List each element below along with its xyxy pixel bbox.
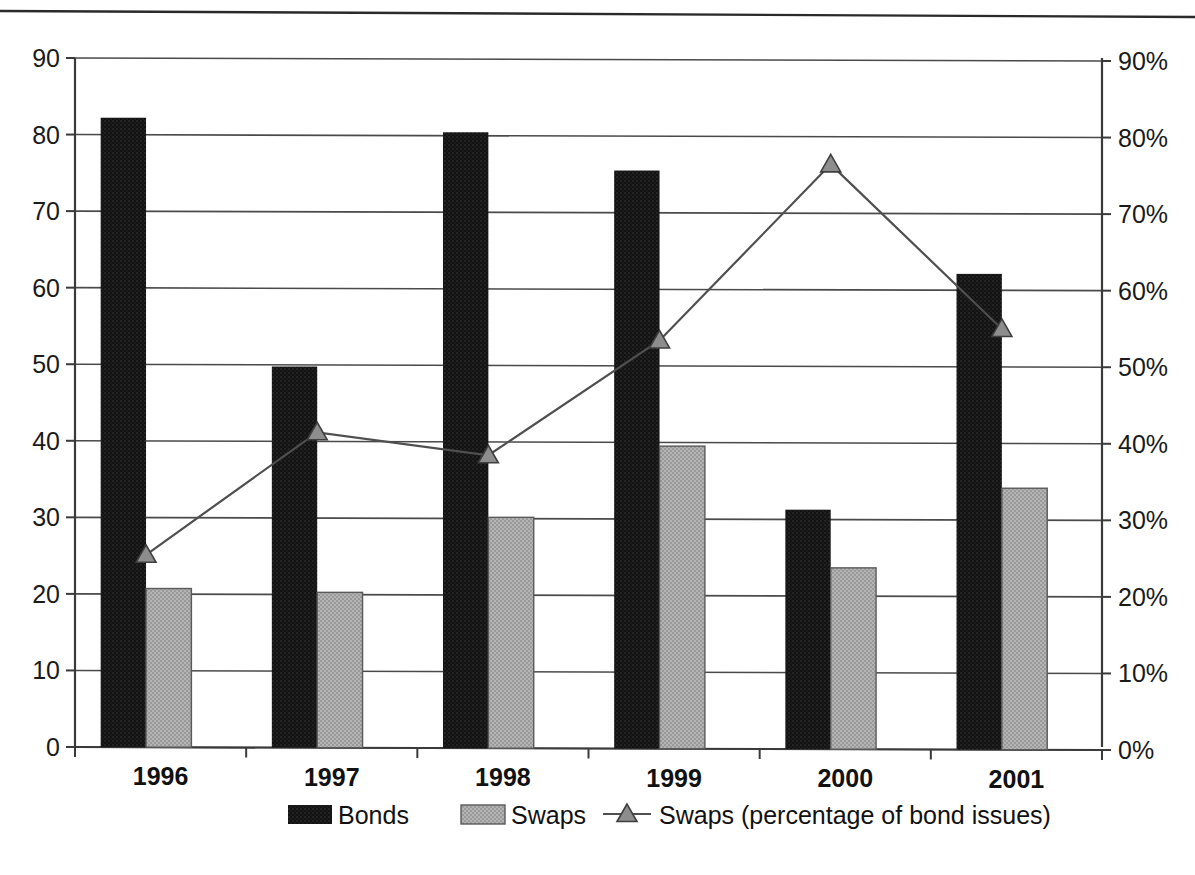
x-axis-category-label: 2001	[989, 765, 1045, 793]
x-axis-category-labels: 199619971998199920002001	[133, 762, 1045, 793]
left-axis-tick-label: 20	[32, 580, 60, 608]
legend-triangle-icon	[617, 804, 637, 822]
right-axis-tick-label: 30%	[1118, 506, 1168, 534]
left-axis-tick-label: 70	[32, 197, 60, 225]
right-axis-tick-label: 60%	[1118, 277, 1168, 305]
bar-swaps	[146, 589, 191, 748]
x-axis-category-label: 1997	[304, 763, 360, 791]
left-axis-tick-label: 30	[32, 503, 60, 531]
bar-bonds	[443, 132, 488, 748]
legend-item: Swaps	[461, 801, 586, 829]
bar-bonds	[272, 367, 317, 748]
chart-axes	[75, 58, 1102, 750]
legend-label: Bonds	[338, 801, 409, 829]
left-axis-tick-label: 40	[32, 427, 60, 455]
legend-swatch-swaps	[461, 805, 505, 824]
bar-bonds	[101, 118, 146, 747]
right-axis-tick-label: 40%	[1118, 430, 1168, 458]
legend-label: Swaps	[511, 801, 586, 829]
right-axis-tick-label: 20%	[1118, 583, 1168, 611]
right-axis-tick-label: 0%	[1118, 736, 1154, 764]
right-axis-tick-labels: 0%10%20%30%40%50%60%70%80%90%	[1102, 47, 1168, 764]
legend-label: Swaps (percentage of bond issues)	[659, 801, 1051, 829]
right-axis-tick-label: 10%	[1118, 659, 1168, 687]
bar-swaps	[488, 517, 533, 748]
right-axis-tick-label: 80%	[1118, 124, 1168, 152]
x-axis-category-label: 2000	[817, 764, 873, 792]
bar-swaps	[317, 592, 362, 747]
x-axis-category-label: 1998	[475, 763, 531, 791]
chart-figure: 0102030405060708090 0%10%20%30%40%50%60%…	[0, 0, 1195, 875]
bar-bonds	[785, 510, 830, 749]
bar-swaps	[1002, 488, 1047, 749]
x-axis-category-label: 1999	[646, 764, 702, 792]
left-axis-tick-label: 0	[46, 733, 60, 761]
bar-swaps	[660, 446, 705, 749]
right-axis-tick-label: 70%	[1118, 200, 1168, 228]
line-series-swaps-percentage	[136, 154, 1012, 562]
combo-bar-line-chart: 0102030405060708090 0%10%20%30%40%50%60%…	[0, 0, 1195, 875]
x-axis-category-label: 1996	[133, 762, 189, 790]
bar-bonds	[614, 171, 659, 749]
left-axis-tick-label: 60	[32, 274, 60, 302]
legend-swatch-bonds	[288, 805, 332, 824]
right-axis-tick-label: 50%	[1118, 353, 1168, 381]
gridlines	[75, 58, 1102, 750]
left-axis-tick-labels: 0102030405060708090	[32, 44, 75, 761]
bar-bonds	[957, 274, 1002, 750]
chart-legend: BondsSwapsSwaps (percentage of bond issu…	[288, 801, 1051, 829]
legend-item: Bonds	[288, 801, 409, 829]
left-axis-tick-label: 10	[32, 656, 60, 684]
bar-swaps	[831, 568, 876, 749]
swaps-percentage-marker	[821, 154, 841, 172]
left-axis-tick-label: 50	[32, 350, 60, 378]
right-axis-tick-label: 90%	[1118, 47, 1168, 75]
legend-item: Swaps (percentage of bond issues)	[603, 801, 1051, 829]
left-axis-tick-label: 90	[32, 44, 60, 72]
left-axis-tick-label: 80	[32, 121, 60, 149]
